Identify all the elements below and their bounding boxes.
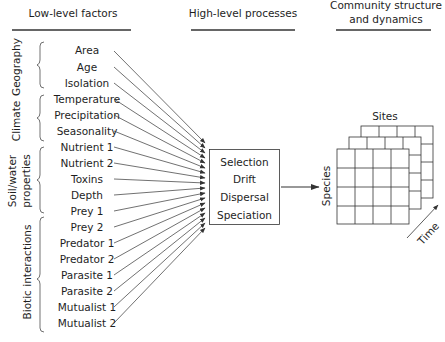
factor-toxins: Toxins — [70, 173, 103, 185]
column-headers: Low-level factors High-level processes C… — [12, 0, 442, 30]
brace-climate — [37, 95, 44, 141]
factor-arrows — [114, 51, 205, 323]
axis-label-time: Time — [414, 220, 441, 248]
arrow-icon — [114, 147, 205, 173]
group-label-biotic-interactions: Biotic interactions — [21, 225, 33, 320]
factor-isolation: Isolation — [65, 77, 109, 89]
factor-predator-1: Predator 1 — [60, 237, 115, 249]
brace-biotic — [37, 217, 44, 332]
community-grid-stack: Sites Species Time — [320, 110, 441, 247]
process-selection: Selection — [220, 156, 268, 168]
header-high-level-processes: High-level processes — [189, 7, 298, 19]
arrow-icon — [114, 115, 205, 163]
factor-precipitation: Precipitation — [54, 109, 120, 121]
processes-box: Selection Drift Dispersal Speciation — [210, 150, 280, 225]
factor-depth: Depth — [71, 189, 103, 201]
arrow-icon — [114, 83, 205, 153]
factor-list: Area Age Isolation Temperature Precipita… — [53, 44, 121, 329]
arrow-icon — [114, 218, 205, 291]
factor-parasite-1: Parasite 1 — [61, 269, 113, 281]
factor-nutrient-1: Nutrient 1 — [60, 141, 113, 153]
factor-age: Age — [77, 61, 97, 73]
factor-mutualist-2: Mutualist 2 — [58, 317, 116, 329]
process-drift: Drift — [233, 173, 256, 185]
factor-seasonality: Seasonality — [57, 125, 118, 137]
factor-prey-1: Prey 1 — [71, 205, 104, 217]
factor-nutrient-2: Nutrient 2 — [60, 157, 113, 169]
factor-temperature: Temperature — [53, 93, 121, 105]
group-label-soil-water-line1: Soil/water — [6, 154, 18, 207]
arrow-icon — [114, 223, 205, 307]
brace-soil-water — [37, 147, 44, 213]
axis-label-species: Species — [320, 166, 332, 206]
header-low-level-factors: Low-level factors — [28, 7, 117, 19]
factor-area: Area — [75, 44, 99, 56]
factor-mutualist-1: Mutualist 1 — [58, 301, 116, 313]
group-label-climate: Climate — [10, 101, 22, 141]
factor-parasite-2: Parasite 2 — [61, 285, 113, 297]
arrow-icon — [114, 188, 205, 195]
header-community-line1: Community structure — [330, 0, 442, 11]
arrow-icon — [114, 51, 205, 143]
arrow-icon — [114, 179, 205, 183]
brace-geography — [37, 42, 44, 88]
factor-predator-2: Predator 2 — [60, 253, 115, 265]
axis-label-sites: Sites — [372, 110, 398, 122]
arrow-icon — [114, 228, 205, 323]
grid-layer-front — [337, 149, 409, 224]
process-speciation: Speciation — [217, 209, 272, 221]
process-dispersal: Dispersal — [220, 191, 269, 203]
group-label-soil-water-line2: properties — [20, 154, 32, 208]
group-label-geography: Geography — [10, 38, 22, 96]
arrow-icon — [114, 163, 205, 178]
factor-prey-2: Prey 2 — [71, 221, 104, 233]
header-community-line2: and dynamics — [349, 13, 422, 25]
arrow-icon — [114, 208, 205, 259]
group-labels: Geography Climate Soil/water properties … — [6, 38, 44, 332]
community-assembly-diagram: Low-level factors High-level processes C… — [0, 0, 445, 342]
